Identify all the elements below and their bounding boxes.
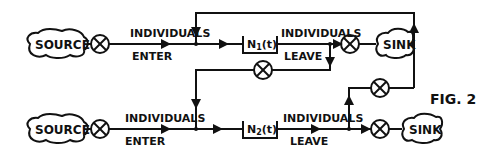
sink-cloud-1: SINK [376,29,416,58]
enter-label-bottom: ENTER [132,50,173,63]
leave-label-top: INDIVIDUALS [281,27,361,40]
svg-text:N1(t): N1(t) [247,38,277,52]
source-cloud-1: SOURCE [28,29,90,58]
row-1: SOURCE INDIVIDUALS ENTER N1(t) INDIVIDUA… [28,27,417,63]
sink-cloud-2: SINK [402,114,442,143]
row-2: SOURCE INDIVIDUALS ENTER N2(t) INDIVIDUA… [28,112,443,148]
enter-label-top: INDIVIDUALS [125,112,205,125]
leave-label-top: INDIVIDUALS [283,112,363,125]
source-label: SOURCE [35,123,90,137]
svg-text:N2(t): N2(t) [247,123,277,137]
sink-label: SINK [383,38,416,52]
source-label: SOURCE [35,38,90,52]
valve-icon [91,35,109,53]
stock-box-n2: N2(t) [243,121,277,138]
figure-label: FIG. 2 [430,91,476,107]
source-cloud-2: SOURCE [28,114,90,143]
leave-label-bottom: LEAVE [284,50,322,63]
valve-icon [371,120,389,138]
stock-box-n1: N1(t) [243,36,277,53]
enter-label-bottom: ENTER [125,135,166,148]
valve-icon [371,79,389,97]
enter-label-top: INDIVIDUALS [130,27,210,40]
sink-label: SINK [409,123,442,137]
valve-icon [254,61,272,79]
leave-label-bottom: LEAVE [290,135,328,148]
valve-icon [91,120,109,138]
flow-diagram: SOURCE INDIVIDUALS ENTER N1(t) INDIVIDUA… [0,0,488,157]
